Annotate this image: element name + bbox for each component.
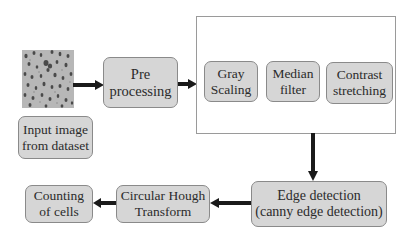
edge-detection-label-line1: Edge detection xyxy=(277,188,361,204)
median-filter-node: Median filter xyxy=(266,61,320,102)
preprocessing-label-line2: processing xyxy=(109,83,171,100)
gray-scaling-label-line2: Scaling xyxy=(211,82,252,98)
contrast-stretching-label-line2: stretching xyxy=(333,83,386,99)
input-image-label-line2: from dataset xyxy=(22,138,89,154)
edge-detection-node: Edge detection (canny edge detection) xyxy=(251,181,387,227)
preprocessing-label-line1: Pre xyxy=(131,66,150,83)
input-image-label-line1: Input image xyxy=(23,122,88,138)
contrast-stretching-node: Contrast stretching xyxy=(326,62,393,104)
input-image-thumbnail xyxy=(22,50,74,108)
circular-hough-label-line1: Circular Hough xyxy=(121,188,205,204)
median-filter-label-line1: Median xyxy=(272,66,313,82)
edge-detection-label-line2: (canny edge detection) xyxy=(255,204,383,220)
arrow-preprocessing-to-steps xyxy=(178,78,198,90)
gray-scaling-label-line1: Gray xyxy=(218,66,245,82)
arrow-steps-to-edge-detection xyxy=(307,133,319,182)
arrow-edge-to-hough xyxy=(209,197,251,209)
counting-label-line1: Counting xyxy=(34,188,84,204)
gray-scaling-node: Gray Scaling xyxy=(204,61,258,102)
contrast-stretching-label-line1: Contrast xyxy=(337,67,383,83)
median-filter-label-line2: filter xyxy=(280,82,306,98)
arrow-input-to-preprocessing xyxy=(73,79,105,91)
circular-hough-label-line2: Transform xyxy=(135,204,192,220)
preprocessing-node: Pre processing xyxy=(103,57,178,108)
input-image-node: Input image from dataset xyxy=(18,116,93,159)
counting-label-line2: of cells xyxy=(39,204,78,220)
cell-image-icon xyxy=(22,50,74,108)
circular-hough-node: Circular Hough Transform xyxy=(116,185,210,223)
arrow-hough-to-counting xyxy=(92,197,116,209)
counting-cells-node: Counting of cells xyxy=(25,185,93,223)
